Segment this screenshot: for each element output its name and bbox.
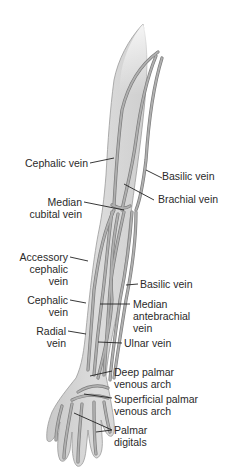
label-basilic-vein-lower: Basilic vein (140, 278, 193, 290)
label-line: antebrachial (133, 310, 190, 322)
label-basilic-vein-upper: Basilic vein (162, 170, 215, 182)
label-line: cephalic (10, 263, 68, 275)
label-cephalic-vein-upper: Cephalic vein (25, 157, 87, 169)
label-line: venous arch (114, 378, 174, 390)
label-line: Brachial vein (158, 193, 218, 205)
label-line: Palmar (114, 424, 147, 436)
label-line: Cephalic (18, 294, 68, 306)
leader-cephalic-lower (70, 300, 86, 303)
label-line: vein (133, 322, 190, 334)
label-line: Superficial palmar (114, 393, 198, 405)
label-line: Accessory (10, 251, 68, 263)
label-deep-palmar-venous-arch: Deep palmar venous arch (114, 366, 174, 390)
label-line: cubital vein (22, 208, 82, 220)
label-line: vein (18, 306, 68, 318)
label-line: digitals (114, 436, 147, 448)
label-accessory-cephalic-vein: Accessory cephalic vein (10, 251, 68, 287)
label-cephalic-vein-lower: Cephalic vein (18, 294, 68, 318)
label-line: Median (133, 298, 190, 310)
label-line: Cephalic vein (25, 157, 87, 169)
label-median-antebrachial-vein: Median antebrachial vein (133, 298, 190, 334)
label-line: vein (10, 275, 68, 287)
label-median-cubital-vein: Median cubital vein (22, 196, 82, 220)
label-line: Ulnar vein (124, 337, 171, 349)
label-line: Basilic vein (140, 278, 193, 290)
label-line: Radial (18, 325, 66, 337)
label-line: Basilic vein (162, 170, 215, 182)
label-ulnar-vein: Ulnar vein (124, 337, 171, 349)
label-line: Median (22, 196, 82, 208)
leader-basilic-upper (146, 170, 162, 178)
label-line: Deep palmar (114, 366, 174, 378)
label-radial-vein: Radial vein (18, 325, 66, 349)
label-palmar-digitals: Palmar digitals (114, 424, 147, 448)
label-line: vein (18, 337, 66, 349)
label-line: venous arch (114, 405, 198, 417)
leader-radial (68, 331, 86, 334)
label-superficial-palmar-venous-arch: Superficial palmar venous arch (114, 393, 198, 417)
label-brachial-vein: Brachial vein (158, 193, 218, 205)
leader-accessory-cephalic (70, 257, 88, 261)
